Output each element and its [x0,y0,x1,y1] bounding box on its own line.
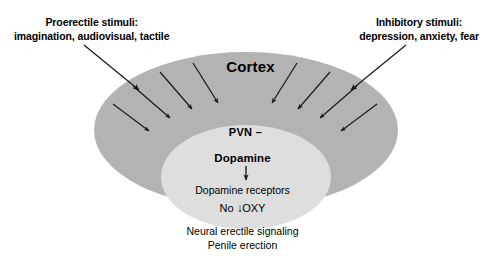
oxytocin-label: No ↓OXY [0,201,485,215]
inhibitory-stimuli-detail: depression, anxiety, fear [359,30,479,44]
cortex-label: Cortex [16,58,485,75]
oxytocin-prefix: No [220,202,234,214]
caption-line-1: Neural erectile signaling [0,224,485,238]
proerectile-stimuli-label: Proerectile stimuli: imagination, audiov… [14,16,169,44]
diagram-canvas: Proerectile stimuli: imagination, audiov… [0,0,485,269]
proerectile-stimuli-detail: imagination, audiovisual, tactile [14,30,169,44]
proerectile-stimuli-title: Proerectile stimuli: [14,16,169,30]
dopamine-label: Dopamine [0,152,485,164]
inhibitory-stimuli-title: Inhibitory stimuli: [359,16,479,30]
inhibitory-stimuli-label: Inhibitory stimuli: depression, anxiety,… [359,16,479,44]
oxytocin-name: OXY [242,202,265,214]
caption-line-2: Penile erection [0,238,485,252]
diagram-caption: Neural erectile signaling Penile erectio… [0,224,485,253]
pvn-label: PVN – [6,126,485,138]
dopamine-receptors-label: Dopamine receptors [0,184,485,196]
